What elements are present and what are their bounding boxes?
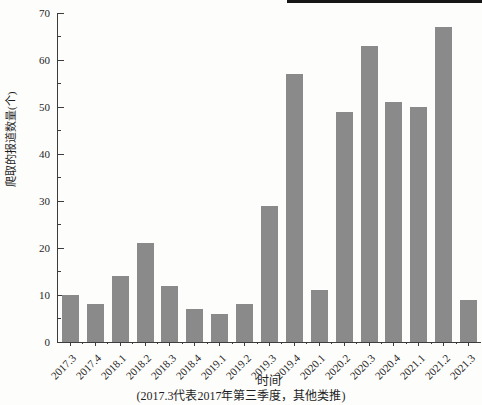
bar-2021.1 <box>410 107 427 342</box>
bar-2018.3 <box>161 286 178 342</box>
y-axis-major-tick <box>58 154 64 155</box>
x-axis-minor-tick <box>232 342 233 344</box>
bar-2018.4 <box>186 309 203 342</box>
x-axis-major-tick <box>120 342 121 346</box>
scanned-bar-chart-figure: 0102030405060702017.32017.42018.12018.22… <box>0 0 482 405</box>
bar-2017.3 <box>62 295 79 342</box>
y-axis-tick-label: 40 <box>14 148 50 160</box>
y-axis-major-tick <box>58 60 64 61</box>
x-axis-major-tick <box>443 342 444 346</box>
x-axis-major-tick <box>393 342 394 346</box>
bar-2019.2 <box>236 304 253 342</box>
bar-2019.3 <box>261 206 278 342</box>
x-axis-minor-tick <box>406 342 407 344</box>
y-axis-title: 爬取的报道数量(个) <box>2 173 18 187</box>
y-axis-minor-tick <box>58 130 61 131</box>
y-axis-tick-label: 60 <box>14 54 50 66</box>
bar-2018.1 <box>112 276 129 342</box>
y-axis-minor-tick <box>58 83 61 84</box>
y-axis-tick-label: 30 <box>14 195 50 207</box>
bar-2020.1 <box>311 290 328 342</box>
y-axis-minor-tick <box>58 177 61 178</box>
x-axis-minor-tick <box>306 342 307 344</box>
y-axis-tick-label: 20 <box>14 242 50 254</box>
y-axis-major-tick <box>58 13 64 14</box>
bar-2020.4 <box>385 102 402 342</box>
bar-2018.2 <box>137 243 154 342</box>
x-axis-minor-tick <box>182 342 183 344</box>
y-axis-major-tick <box>58 248 64 249</box>
x-axis-minor-tick <box>207 342 208 344</box>
x-axis-minor-tick <box>281 342 282 344</box>
x-axis-major-tick <box>294 342 295 346</box>
y-axis-tick-label: 0 <box>14 336 50 348</box>
x-axis-minor-tick <box>82 342 83 344</box>
bar-2019.4 <box>286 74 303 342</box>
x-axis-major-tick <box>169 342 170 346</box>
x-axis-major-tick <box>194 342 195 346</box>
page-scan-rule <box>287 0 482 3</box>
x-axis-major-tick <box>418 342 419 346</box>
bar-2020.2 <box>336 112 353 342</box>
x-axis-minor-tick <box>456 342 457 344</box>
x-axis-minor-tick <box>331 342 332 344</box>
bar-2021.2 <box>435 27 452 342</box>
bar-2020.3 <box>361 46 378 342</box>
x-axis-minor-tick <box>132 342 133 344</box>
y-axis-tick-label: 70 <box>14 7 50 19</box>
y-axis-major-tick <box>58 107 64 108</box>
figure-caption: (2017.3代表2017年第三季度，其他类推) <box>0 386 482 404</box>
x-axis-major-tick <box>219 342 220 346</box>
x-axis-major-tick <box>145 342 146 346</box>
bar-2019.1 <box>211 314 228 342</box>
x-axis-minor-tick <box>107 342 108 344</box>
x-axis-major-tick <box>244 342 245 346</box>
bar-2017.4 <box>87 304 104 342</box>
x-axis-major-tick <box>70 342 71 346</box>
x-axis-minor-tick <box>157 342 158 344</box>
x-axis-minor-tick <box>356 342 357 344</box>
y-axis-major-tick <box>58 201 64 202</box>
y-axis-minor-tick <box>58 224 61 225</box>
x-axis-major-tick <box>369 342 370 346</box>
x-axis-major-tick <box>95 342 96 346</box>
y-axis-minor-tick <box>58 36 61 37</box>
y-axis-tick-label: 50 <box>14 101 50 113</box>
plot-area: 0102030405060702017.32017.42018.12018.22… <box>57 13 481 343</box>
x-axis-major-tick <box>269 342 270 346</box>
bar-2021.3 <box>460 300 477 342</box>
y-axis-minor-tick <box>58 318 61 319</box>
y-axis-tick-label: 10 <box>14 289 50 301</box>
x-axis-minor-tick <box>381 342 382 344</box>
x-axis-minor-tick <box>257 342 258 344</box>
y-axis-minor-tick <box>58 271 61 272</box>
x-axis-major-tick <box>319 342 320 346</box>
x-axis-minor-tick <box>431 342 432 344</box>
x-axis-major-tick <box>344 342 345 346</box>
x-axis-major-tick <box>468 342 469 346</box>
